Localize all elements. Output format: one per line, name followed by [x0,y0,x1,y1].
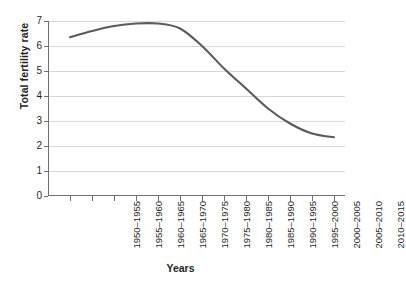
x-tick-label: 2000–2005 [352,201,362,259]
x-axis-tick-labels: 1950–19551955–19601960–19651965–19701970… [48,201,348,259]
y-tick-label: 2 [20,141,42,151]
plot-area [48,21,345,196]
fertility-rate-series-line [48,21,345,196]
y-tick-label: 7 [20,16,42,26]
x-tick-label: 2005–2010 [374,201,384,259]
x-tick-label: 1960–1965 [176,201,186,259]
x-tick-label: 1985–1990 [286,201,296,259]
x-tick-label: 1995–2000 [330,201,340,259]
x-axis-title: Years [0,262,361,274]
y-tick-label: 6 [20,41,42,51]
x-tick-label: 2010–2015 [396,201,406,259]
y-tick-mark [44,196,48,197]
y-axis-tick-labels: 01234567 [20,21,42,196]
y-tick-label: 5 [20,66,42,76]
y-tick-label: 1 [20,166,42,176]
x-tick-label: 1970–1975 [220,201,230,259]
x-tick-label: 1980–1985 [264,201,274,259]
x-tick-label: 1955–1960 [154,201,164,259]
x-tick-label: 1975–1980 [242,201,252,259]
y-tick-label: 0 [20,191,42,201]
series-path [70,23,334,137]
y-tick-label: 4 [20,91,42,101]
x-tick-label: 1950–1955 [132,201,142,259]
x-tick-label: 1990–1995 [308,201,318,259]
x-tick-label: 1965–1970 [198,201,208,259]
y-tick-label: 3 [20,116,42,126]
